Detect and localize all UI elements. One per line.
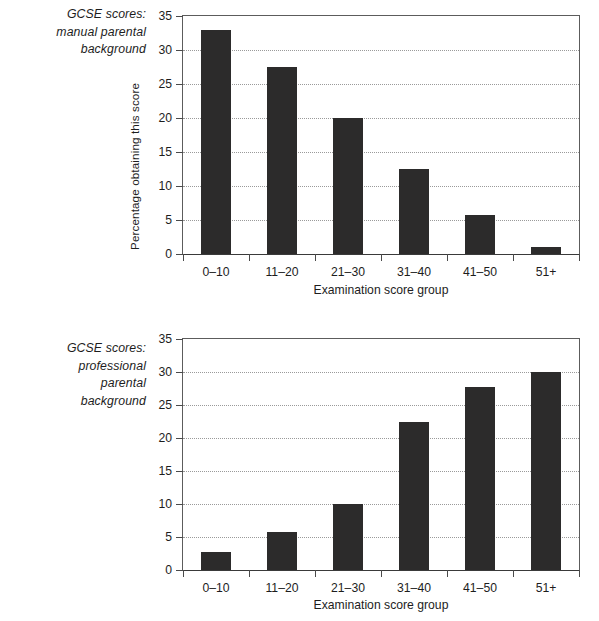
y-axis-tick bbox=[176, 504, 183, 505]
x-axis-title: Examination score group bbox=[182, 283, 580, 297]
x-axis-tick bbox=[381, 254, 382, 261]
x-axis-tick bbox=[183, 254, 184, 261]
x-axis-tick bbox=[315, 570, 316, 577]
y-axis-tick bbox=[176, 220, 183, 221]
plot-area: 051015202530350–1011–2021–3031–4041–5051… bbox=[182, 15, 580, 255]
gridline bbox=[183, 372, 579, 373]
gridline bbox=[183, 504, 579, 505]
bar bbox=[333, 118, 363, 254]
bar bbox=[531, 247, 561, 254]
x-axis-tick bbox=[315, 254, 316, 261]
y-axis-tick-label: 5 bbox=[165, 530, 172, 544]
x-axis-tick bbox=[513, 254, 514, 261]
y-axis-tick-label: 15 bbox=[158, 464, 172, 478]
gridline bbox=[183, 405, 579, 406]
x-axis-tick bbox=[447, 570, 448, 577]
y-axis-tick bbox=[176, 16, 183, 17]
y-axis-tick bbox=[176, 254, 183, 255]
x-axis-tick-label: 11–20 bbox=[266, 581, 299, 595]
gridline bbox=[183, 438, 579, 439]
y-axis-tick-label: 30 bbox=[158, 43, 172, 57]
bar bbox=[465, 387, 495, 570]
x-axis-tick bbox=[249, 570, 250, 577]
y-axis-tick-label: 25 bbox=[158, 398, 172, 412]
bar bbox=[465, 215, 495, 254]
chart-panel-professional-background: GCSE scores: professional parental backg… bbox=[0, 310, 599, 621]
x-axis-tick bbox=[381, 570, 382, 577]
y-axis-tick-label: 0 bbox=[165, 247, 172, 261]
bar bbox=[399, 169, 429, 254]
chart-panel-manual-background: GCSE scores: manual parental background … bbox=[0, 0, 599, 310]
x-axis-tick bbox=[183, 570, 184, 577]
x-axis-tick bbox=[579, 570, 580, 577]
y-axis-tick bbox=[176, 339, 183, 340]
y-axis-tick-label: 25 bbox=[158, 77, 172, 91]
y-axis-tick-label: 10 bbox=[158, 179, 172, 193]
bar bbox=[333, 504, 363, 570]
y-axis-tick bbox=[176, 50, 183, 51]
bar bbox=[267, 67, 297, 254]
y-axis-tick-label: 35 bbox=[158, 9, 172, 23]
y-axis-tick bbox=[176, 152, 183, 153]
y-axis-tick-label: 20 bbox=[158, 431, 172, 445]
panel-caption: GCSE scores: manual parental background bbox=[6, 6, 146, 59]
bar bbox=[399, 422, 429, 571]
x-axis-tick-label: 41–50 bbox=[463, 581, 497, 595]
y-axis-tick-label: 35 bbox=[158, 332, 172, 346]
gridline bbox=[183, 152, 579, 153]
x-axis-tick-label: 51+ bbox=[536, 581, 557, 595]
y-axis-tick bbox=[176, 471, 183, 472]
bar bbox=[531, 372, 561, 570]
x-axis-tick-label: 21–30 bbox=[331, 581, 365, 595]
panel-caption: GCSE scores: professional parental backg… bbox=[6, 340, 146, 410]
x-axis-tick bbox=[579, 254, 580, 261]
y-axis-tick bbox=[176, 537, 183, 538]
y-axis-tick-label: 30 bbox=[158, 365, 172, 379]
x-axis-tick bbox=[513, 570, 514, 577]
x-axis-tick-label: 11–20 bbox=[266, 265, 299, 279]
x-axis-tick-label: 0–10 bbox=[202, 581, 229, 595]
gridline bbox=[183, 220, 579, 221]
gridline bbox=[183, 118, 579, 119]
x-axis-tick-label: 31–40 bbox=[397, 581, 431, 595]
x-axis-tick bbox=[249, 254, 250, 261]
y-axis-tick-label: 20 bbox=[158, 111, 172, 125]
y-axis-tick bbox=[176, 118, 183, 119]
y-axis-tick bbox=[176, 570, 183, 571]
gridline bbox=[183, 537, 579, 538]
y-axis-tick bbox=[176, 186, 183, 187]
gridline bbox=[183, 471, 579, 472]
y-axis-tick-label: 10 bbox=[158, 497, 172, 511]
y-axis-tick-label: 15 bbox=[158, 145, 172, 159]
y-axis-tick bbox=[176, 372, 183, 373]
y-axis-tick bbox=[176, 84, 183, 85]
y-axis-tick bbox=[176, 438, 183, 439]
x-axis-tick-label: 0–10 bbox=[202, 265, 229, 279]
gridline bbox=[183, 186, 579, 187]
y-axis-title: Percentage obtaining this score bbox=[128, 83, 141, 250]
gridline bbox=[183, 50, 579, 51]
gridline bbox=[183, 84, 579, 85]
x-axis-tick bbox=[447, 254, 448, 261]
bar bbox=[267, 532, 297, 570]
y-axis-tick bbox=[176, 405, 183, 406]
x-axis-tick-label: 51+ bbox=[536, 265, 557, 279]
bar bbox=[201, 552, 231, 570]
y-axis-tick-label: 0 bbox=[165, 563, 172, 577]
x-axis-tick-label: 21–30 bbox=[331, 265, 365, 279]
x-axis-tick-label: 31–40 bbox=[397, 265, 431, 279]
bar bbox=[201, 30, 231, 254]
x-axis-title: Examination score group bbox=[182, 598, 580, 612]
y-axis-tick-label: 5 bbox=[165, 213, 172, 227]
x-axis-tick-label: 41–50 bbox=[463, 265, 497, 279]
plot-area: 051015202530350–1011–2021–3031–4041–5051… bbox=[182, 338, 580, 571]
